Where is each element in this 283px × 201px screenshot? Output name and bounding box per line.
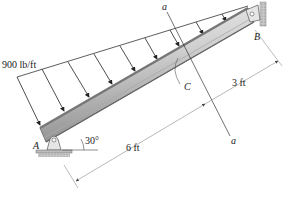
- load-label: 900 lb/ft: [2, 59, 36, 70]
- load-arrow: [42, 69, 64, 111]
- angle-label: 30°: [85, 135, 99, 146]
- load-arrow: [94, 54, 112, 84]
- load-arrow: [196, 22, 203, 34]
- pin-support-a: [36, 136, 72, 157]
- dimension-6ft-label: 6 ft: [126, 142, 140, 153]
- distributed-load: [17, 6, 248, 125]
- load-arrow: [145, 38, 157, 59]
- load-arrow: [120, 46, 135, 71]
- point-b-label: B: [254, 31, 260, 42]
- diagram-canvas: 900 lb/ft A B C a a 30° 6 ft 3 ft: [0, 0, 283, 201]
- ground-hatch: [38, 153, 70, 157]
- load-arrow: [17, 77, 40, 125]
- beam-web-line: [44, 18, 252, 138]
- wall-support-b: [260, 2, 266, 26]
- ground-plate: [36, 150, 72, 153]
- point-c-label: C: [184, 81, 191, 92]
- load-arrow: [68, 62, 89, 97]
- beam: [40, 8, 254, 142]
- section-a-bottom-label: a: [231, 135, 236, 146]
- beam-diagram: 900 lb/ft A B C a a 30° 6 ft 3 ft: [0, 0, 283, 201]
- beam-bottom-flange: [46, 22, 254, 142]
- dimension-3ft-label: 3 ft: [232, 77, 246, 88]
- section-a-top-label: a: [162, 1, 167, 12]
- extension-line-a: [64, 165, 78, 188]
- point-a-label: A: [32, 140, 40, 151]
